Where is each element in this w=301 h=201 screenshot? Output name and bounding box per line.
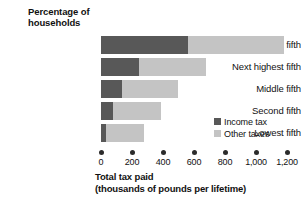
x-axis-caption: Total tax paid (thousands of pounds per …	[95, 171, 301, 194]
axis-tick-dot	[285, 150, 290, 155]
axis-tick-dot	[254, 150, 259, 155]
legend-swatch-icon	[214, 130, 221, 137]
axis-tick-dot	[130, 150, 135, 155]
legend-label: Income tax	[224, 117, 267, 127]
x-axis-caption-line-1: Total tax paid	[95, 171, 301, 183]
legend-swatch-icon	[214, 118, 221, 125]
legend-label: Other taxes	[224, 129, 269, 139]
chart-legend: Income taxOther taxes	[214, 116, 269, 140]
chart-container: Percentage of households Highest fifthNe…	[0, 0, 301, 201]
axis-tick-dot	[192, 150, 197, 155]
axis-tick-label: 1,200	[267, 157, 301, 167]
axis-tick-dot	[223, 150, 228, 155]
legend-item[interactable]: Other taxes	[214, 128, 269, 139]
x-axis-caption-line-2: (thousands of pounds per lifetime)	[95, 183, 301, 195]
legend-item[interactable]: Income tax	[214, 116, 269, 127]
axis-tick-dot	[99, 150, 104, 155]
axis-tick-dot	[161, 150, 166, 155]
